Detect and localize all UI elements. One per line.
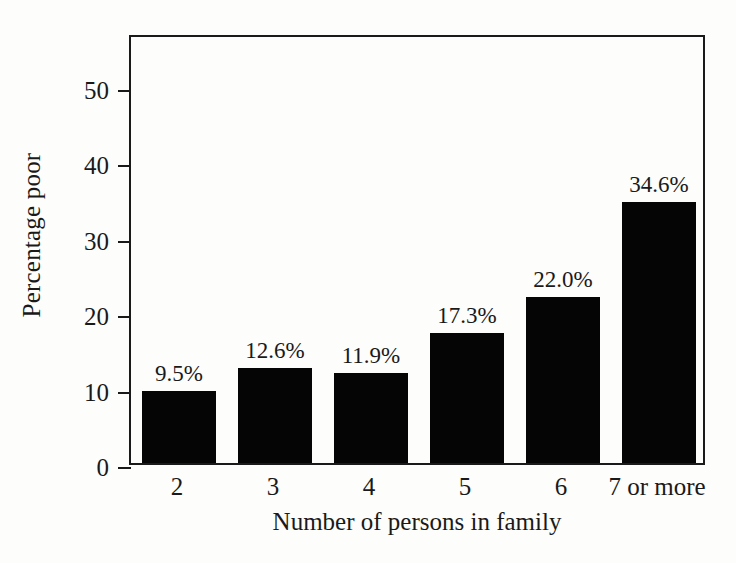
- bars-layer: 9.5%12.6%11.9%17.3%22.0%34.6%: [131, 37, 703, 463]
- y-axis-tick: 0: [118, 467, 131, 469]
- bar-value-label: 22.0%: [500, 267, 626, 293]
- x-axis-tick-label: 7 or more: [579, 472, 735, 502]
- bar-group: 17.3%: [430, 37, 504, 463]
- y-axis-tick: 40: [118, 165, 131, 167]
- bar-group: 12.6%: [238, 37, 312, 463]
- bar: [238, 368, 312, 463]
- y-axis-tick: 10: [118, 392, 131, 394]
- bar: [334, 373, 408, 463]
- bar-value-label: 17.3%: [404, 303, 530, 329]
- bar: [526, 297, 600, 463]
- y-axis-title: Percentage poor: [12, 0, 52, 470]
- y-axis-tick-label: 10: [84, 378, 109, 408]
- y-axis-tick: 30: [118, 241, 131, 243]
- y-axis-tick-label: 50: [84, 76, 109, 106]
- bar-chart-figure: Percentage poor 01020304050 9.5%12.6%11.…: [0, 0, 736, 563]
- y-axis-tick-label: 30: [84, 227, 109, 257]
- bar-group: 22.0%: [526, 37, 600, 463]
- bar: [622, 202, 696, 463]
- y-axis-tick-label: 20: [84, 302, 109, 332]
- bar-group: 9.5%: [142, 37, 216, 463]
- bar: [430, 333, 504, 464]
- y-axis-tick: 50: [118, 90, 131, 92]
- y-axis-tick-label: 40: [84, 151, 109, 181]
- x-axis-title: Number of persons in family: [129, 508, 705, 536]
- plot-area: 01020304050 9.5%12.6%11.9%17.3%22.0%34.6…: [129, 35, 705, 465]
- bar-group: 34.6%: [622, 37, 696, 463]
- bar-value-label: 9.5%: [116, 361, 242, 387]
- bar: [142, 391, 216, 463]
- bar-value-label: 11.9%: [308, 343, 434, 369]
- bar-group: 11.9%: [334, 37, 408, 463]
- y-axis-tick: 20: [118, 316, 131, 318]
- bar-value-label: 34.6%: [596, 172, 722, 198]
